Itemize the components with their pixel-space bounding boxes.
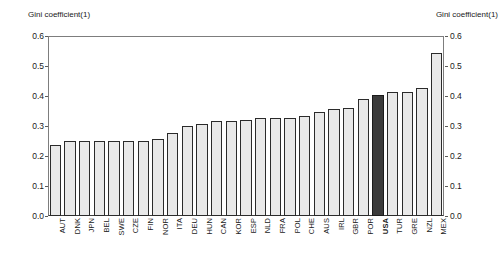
bar-usa	[372, 95, 383, 216]
y-axis-left: 0.00.10.20.30.40.50.6	[22, 36, 44, 216]
bar-esp	[240, 120, 251, 216]
x-label-usa: USA	[382, 218, 390, 234]
x-label-mex: MEX	[440, 218, 448, 235]
x-label-fra: FRA	[279, 218, 287, 233]
bar-deu	[182, 126, 193, 216]
bar-dnk	[64, 141, 75, 216]
x-label-cze: CZE	[132, 218, 140, 233]
bar-series	[48, 36, 444, 216]
x-axis-category-labels: AUTDNKJPNBELSWECZEFINNORITADEUHUNCANKORE…	[48, 218, 444, 256]
y-tick-label-right: 0.1	[450, 182, 474, 191]
x-label-pol: POL	[294, 218, 302, 233]
y-tick-label-right: 0.3	[450, 122, 474, 131]
bar-cze	[123, 141, 134, 216]
y-tick-label-left: 0.0	[22, 212, 44, 221]
y-tick-label-right: 0.4	[450, 92, 474, 101]
x-label-deu: DEU	[191, 218, 199, 234]
bar-jpn	[79, 141, 90, 216]
bar-nzl	[416, 88, 427, 216]
x-label-kor: KOR	[235, 218, 243, 235]
right-axis-title: Gini coefficient(1)	[436, 10, 498, 20]
x-label-nld: NLD	[264, 218, 272, 233]
x-label-jpn: JPN	[88, 218, 96, 232]
y-tick-label-right: 0.0	[450, 212, 474, 221]
bar-aus	[314, 112, 325, 216]
y-tick-label-left: 0.2	[22, 152, 44, 161]
x-label-aut: AUT	[59, 218, 67, 233]
x-label-swe: SWE	[118, 218, 126, 235]
y-tick-mark-right	[445, 156, 448, 157]
x-label-bel: BEL	[103, 218, 111, 232]
x-label-fin: FIN	[147, 218, 155, 230]
x-label-nzl: NZL	[426, 218, 434, 232]
bar-hun	[196, 124, 207, 216]
bar-kor	[226, 121, 237, 216]
bar-tur	[387, 92, 398, 216]
x-label-tur: TUR	[396, 218, 404, 234]
y-tick-label-right: 0.5	[450, 62, 474, 71]
x-label-irl: IRL	[338, 218, 346, 230]
bar-can	[211, 121, 222, 216]
bar-ita	[167, 133, 178, 216]
y-tick-label-left: 0.1	[22, 182, 44, 191]
y-tick-mark-right	[445, 126, 448, 127]
bar-swe	[108, 141, 119, 216]
bar-aut	[50, 145, 61, 216]
x-label-nor: NOR	[162, 218, 170, 235]
x-label-can: CAN	[220, 218, 228, 234]
y-axis-right: 0.00.10.20.30.40.50.6	[450, 36, 474, 216]
bar-pol	[284, 118, 295, 216]
bar-irl	[328, 109, 339, 216]
y-tick-mark-right	[445, 36, 448, 37]
y-tick-mark-right	[445, 186, 448, 187]
left-axis-title: Gini coefficient(1)	[28, 10, 90, 20]
y-tick-mark-right	[445, 66, 448, 67]
bar-che	[299, 116, 310, 216]
x-label-hun: HUN	[206, 218, 214, 235]
x-label-por: POR	[367, 218, 375, 235]
y-tick-mark-right	[445, 96, 448, 97]
y-tick-label-right: 0.6	[450, 32, 474, 41]
bar-gre	[402, 92, 413, 216]
x-label-gbr: GBR	[352, 218, 360, 235]
y-tick-label-left: 0.3	[22, 122, 44, 131]
x-label-che: CHE	[308, 218, 316, 234]
x-label-ita: ITA	[176, 218, 184, 229]
bar-fra	[270, 118, 281, 216]
y-tick-label-left: 0.6	[22, 32, 44, 41]
gini-coefficient-bar-chart: Gini coefficient(1) Gini coefficient(1) …	[0, 0, 501, 257]
x-label-dnk: DNK	[74, 218, 82, 234]
y-tick-label-left: 0.4	[22, 92, 44, 101]
bar-por	[358, 99, 369, 216]
x-label-esp: ESP	[250, 218, 258, 233]
bar-nor	[152, 139, 163, 216]
y-tick-label-right: 0.2	[450, 152, 474, 161]
y-tick-label-left: 0.5	[22, 62, 44, 71]
bar-mex	[431, 53, 442, 216]
x-label-gre: GRE	[411, 218, 419, 235]
bar-nld	[255, 118, 266, 216]
bar-bel	[94, 141, 105, 216]
y-tick-mark-right	[445, 216, 448, 217]
x-label-aus: AUS	[323, 218, 331, 234]
bar-fin	[138, 141, 149, 216]
y-tick-mark-left	[45, 216, 48, 217]
bar-gbr	[343, 108, 354, 216]
